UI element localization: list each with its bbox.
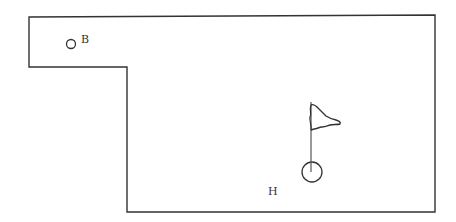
hole-circle <box>302 162 322 182</box>
ball-label: B <box>81 34 89 45</box>
flag-icon <box>311 105 340 130</box>
ball-marker <box>67 40 76 49</box>
golf-hole-diagram <box>0 0 456 222</box>
hole-label: H <box>268 186 278 197</box>
course-boundary <box>29 15 435 212</box>
